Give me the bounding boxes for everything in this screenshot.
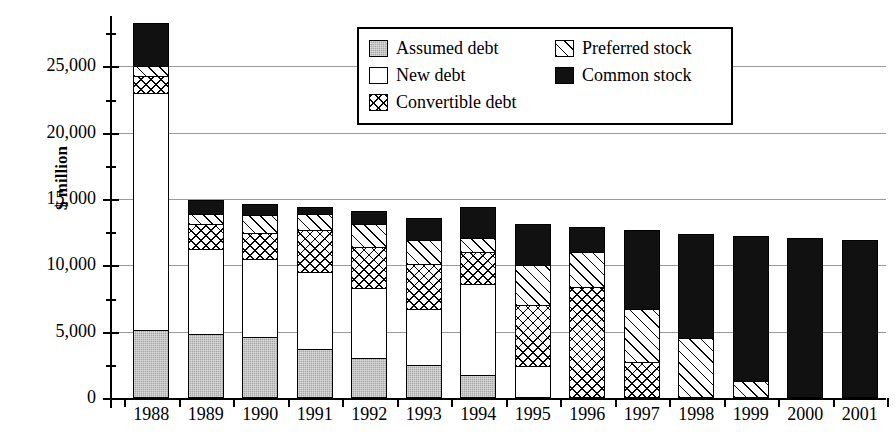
bar-segment-common-stock bbox=[787, 238, 823, 398]
bar-1988 bbox=[133, 23, 169, 398]
legend-item-assumed-debt[interactable]: Assumed debt bbox=[369, 38, 555, 59]
bar-1991 bbox=[297, 207, 333, 398]
y-tick-mark bbox=[103, 66, 119, 68]
y-minor-tick-mark bbox=[106, 33, 116, 35]
x-tick-label-1988: 1988 bbox=[124, 404, 179, 425]
legend-item-preferred-stock[interactable]: Preferred stock bbox=[555, 38, 745, 59]
bar-segment-assumed-debt bbox=[133, 330, 169, 398]
bar-segment-common-stock bbox=[678, 234, 714, 339]
bar-segment-new-debt bbox=[515, 366, 551, 398]
bar-segment-new-debt bbox=[133, 93, 169, 330]
bar-segment-assumed-debt bbox=[406, 365, 442, 398]
legend-swatch-icon bbox=[369, 40, 388, 57]
bar-2001 bbox=[842, 240, 878, 398]
bar-segment-assumed-debt bbox=[297, 349, 333, 398]
y-tick-label: 0 bbox=[24, 388, 96, 406]
bar-segment-preferred-stock bbox=[406, 240, 442, 264]
legend-label: Common stock bbox=[582, 65, 692, 86]
y-minor-tick-mark bbox=[106, 365, 116, 367]
y-tick-mark bbox=[103, 199, 119, 201]
y-axis-line bbox=[110, 16, 112, 408]
bar-segment-common-stock bbox=[406, 218, 442, 241]
x-tick-label-1990: 1990 bbox=[233, 404, 288, 425]
bar-segment-assumed-debt bbox=[460, 375, 496, 398]
bar-segment-common-stock bbox=[297, 207, 333, 214]
bar-segment-common-stock bbox=[515, 224, 551, 265]
legend-item-convertible-debt[interactable]: Convertible debt bbox=[369, 92, 555, 113]
stacked-bar-chart: $ million 05,00010,00015,00020,00025,000… bbox=[0, 0, 896, 445]
bar-1995 bbox=[515, 224, 551, 398]
bar-segment-preferred-stock bbox=[188, 214, 224, 225]
bar-1997 bbox=[624, 230, 660, 398]
bar-1992 bbox=[351, 211, 387, 398]
bar-segment-convertible-debt bbox=[515, 305, 551, 366]
bar-segment-convertible-debt bbox=[460, 252, 496, 284]
bar-segment-common-stock bbox=[460, 207, 496, 238]
y-tick-label: 20,000 bbox=[24, 123, 96, 141]
y-tick-label: 25,000 bbox=[24, 56, 96, 74]
y-tick-mark bbox=[103, 265, 119, 267]
bar-segment-common-stock bbox=[624, 230, 660, 310]
x-tick-mark bbox=[887, 398, 889, 407]
gridline bbox=[110, 265, 886, 266]
x-tick-label-1997: 1997 bbox=[615, 404, 670, 425]
bar-1994 bbox=[460, 220, 496, 398]
legend-label: Preferred stock bbox=[582, 38, 691, 59]
x-tick-label-1991: 1991 bbox=[288, 404, 343, 425]
legend-item-new-debt[interactable]: New debt bbox=[369, 65, 555, 86]
bar-segment-preferred-stock bbox=[569, 252, 605, 286]
x-axis-line bbox=[110, 398, 886, 400]
bar-segment-assumed-debt bbox=[188, 334, 224, 398]
x-tick-label-1998: 1998 bbox=[669, 404, 724, 425]
bar-segment-preferred-stock bbox=[242, 215, 278, 233]
bar-segment-common-stock bbox=[569, 227, 605, 252]
bar-segment-convertible-debt bbox=[351, 247, 387, 288]
gridline bbox=[110, 332, 886, 333]
legend-swatch-icon bbox=[369, 94, 388, 111]
y-axis-tick-labels: 05,00010,00015,00020,00025,000 bbox=[22, 0, 96, 445]
bar-segment-preferred-stock bbox=[624, 309, 660, 362]
bar-segment-preferred-stock bbox=[297, 214, 333, 230]
legend-label: Assumed debt bbox=[396, 38, 499, 59]
x-tick-label-1999: 1999 bbox=[724, 404, 779, 425]
bar-segment-common-stock bbox=[351, 211, 387, 224]
y-minor-tick-mark bbox=[106, 299, 116, 301]
x-tick-label-1993: 1993 bbox=[397, 404, 452, 425]
y-tick-mark bbox=[103, 332, 119, 334]
bar-1998 bbox=[678, 234, 714, 398]
bar-segment-convertible-debt bbox=[297, 230, 333, 272]
bar-segment-assumed-debt bbox=[242, 337, 278, 398]
y-tick-label: 15,000 bbox=[24, 189, 96, 207]
bar-segment-new-debt bbox=[242, 259, 278, 337]
bar-segment-common-stock bbox=[733, 236, 769, 381]
bar-segment-new-debt bbox=[188, 249, 224, 333]
y-minor-tick-mark bbox=[106, 166, 116, 168]
gridline bbox=[110, 133, 886, 134]
x-tick-label-2001: 2001 bbox=[833, 404, 888, 425]
bar-segment-assumed-debt bbox=[351, 358, 387, 398]
legend-swatch-icon bbox=[555, 40, 574, 57]
x-tick-label-1992: 1992 bbox=[342, 404, 397, 425]
bar-segment-convertible-debt bbox=[188, 224, 224, 249]
bar-segment-preferred-stock bbox=[733, 381, 769, 398]
legend-item-common-stock[interactable]: Common stock bbox=[555, 65, 745, 86]
bar-segment-convertible-debt bbox=[624, 362, 660, 398]
bar-1996 bbox=[569, 227, 605, 398]
x-tick-label-2000: 2000 bbox=[778, 404, 833, 425]
bar-segment-convertible-debt bbox=[569, 287, 605, 398]
bar-segment-common-stock bbox=[242, 204, 278, 215]
bar-segment-preferred-stock bbox=[460, 238, 496, 253]
bar-segment-common-stock bbox=[133, 23, 169, 66]
x-tick-label-1994: 1994 bbox=[451, 404, 506, 425]
legend-grid: Assumed debtPreferred stockNew debtCommo… bbox=[369, 35, 723, 116]
y-minor-tick-mark bbox=[106, 100, 116, 102]
bar-segment-preferred-stock bbox=[351, 224, 387, 247]
legend-swatch-icon bbox=[369, 67, 388, 84]
bar-2000 bbox=[787, 238, 823, 398]
bar-segment-preferred-stock bbox=[515, 265, 551, 305]
bar-segment-new-debt bbox=[460, 284, 496, 376]
bar-segment-new-debt bbox=[297, 272, 333, 349]
bar-segment-preferred-stock bbox=[133, 66, 169, 77]
bar-1999 bbox=[733, 236, 769, 398]
bar-segment-new-debt bbox=[406, 309, 442, 365]
